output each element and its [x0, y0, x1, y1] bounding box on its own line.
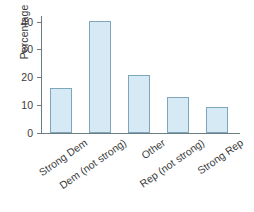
bar-chart-figure: Percentage 010203040 Strong DemDem (not … [0, 0, 254, 212]
y-tick-label: 40 [3, 17, 33, 28]
y-tick-mark [37, 77, 42, 78]
bar [206, 107, 228, 133]
bar [128, 75, 150, 133]
y-tick-mark [37, 22, 42, 23]
y-axis-line [41, 16, 42, 133]
bar [167, 97, 189, 133]
y-tick-label: 30 [3, 44, 33, 55]
bar [89, 21, 111, 133]
y-tick-label: 10 [3, 100, 33, 111]
bar [50, 88, 72, 133]
y-tick-label: 0 [3, 128, 33, 139]
x-axis-line [37, 133, 240, 134]
y-tick-mark [37, 49, 42, 50]
y-tick-label: 20 [3, 72, 33, 83]
y-tick-mark [37, 133, 42, 134]
plot-area [41, 16, 237, 133]
y-tick-mark [37, 105, 42, 106]
